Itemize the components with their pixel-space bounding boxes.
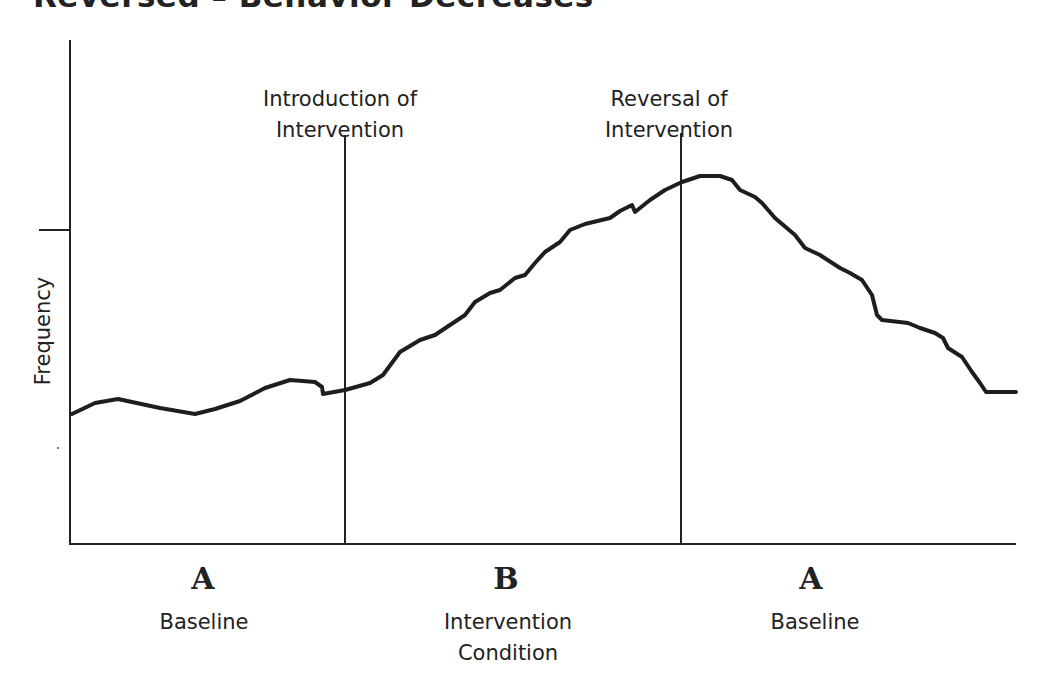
phase-name-a1: Baseline	[159, 607, 248, 638]
phase-name-a2: Baseline	[770, 607, 859, 638]
phase-name-a1-line1: Baseline	[159, 607, 248, 638]
annotation-reversal-line1: Reversal of	[605, 84, 733, 115]
annotation-introduction-line1: Introduction of	[263, 84, 417, 115]
phase-letter-a1: A	[191, 561, 214, 596]
annotation-reversal-line2: Intervention	[605, 115, 733, 146]
chart-canvas	[0, 0, 1048, 699]
stray-dot	[57, 447, 59, 449]
annotation-introduction: Introduction of Intervention	[263, 84, 417, 146]
frequency-line	[72, 176, 1016, 414]
phase-name-b: Intervention Condition	[444, 607, 572, 669]
phase-name-a2-line1: Baseline	[770, 607, 859, 638]
annotation-introduction-line2: Intervention	[263, 115, 417, 146]
phase-name-b-line1: Intervention	[444, 607, 572, 638]
phase-letter-a2: A	[799, 561, 822, 596]
phase-letter-b: B	[493, 561, 518, 596]
annotation-reversal: Reversal of Intervention	[605, 84, 733, 146]
phase-name-b-line2: Condition	[444, 638, 572, 669]
y-axis-label: Frequency	[31, 277, 55, 386]
